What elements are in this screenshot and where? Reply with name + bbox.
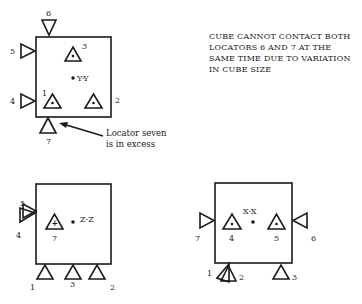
label-locator-6: 6: [46, 9, 51, 18]
label-locator-7-z: 7: [52, 234, 57, 243]
locator-4-triangle: [21, 94, 35, 108]
label-locator-4-z: 4: [16, 231, 21, 240]
locator-3-triangle-x: [273, 265, 289, 279]
center-dot-y: [71, 76, 74, 79]
locator-1-triangle-z: [37, 265, 53, 279]
locator-5-triangle: [21, 44, 35, 58]
label-locator-3: 3: [82, 42, 87, 51]
locator-2-triangle: [85, 94, 102, 108]
note-line: CUBE CANNOT CONTACT BOTH: [209, 31, 359, 42]
label-locator-3-x: 3: [292, 273, 297, 282]
label-locator-5: 5: [10, 47, 15, 56]
label-locator-1-z: 1: [30, 283, 35, 292]
locator-3-triangle-z: [65, 265, 81, 279]
callout-line: is in excess: [106, 139, 167, 150]
label-locator-2: 2: [115, 96, 120, 105]
note-text-block: CUBE CANNOT CONTACT BOTH LOCATORS 6 AND …: [209, 31, 359, 75]
locator-2-triangle-z: [89, 265, 105, 279]
note-line: SAME TIME DUE TO VARIATION: [209, 53, 359, 64]
label-locator-2-x: 2: [239, 273, 244, 282]
locator-6-triangle: [42, 20, 56, 35]
label-locator-7: 7: [46, 137, 51, 146]
axis-label-z-z: Z-Z: [80, 215, 94, 224]
view-y-y: [21, 20, 111, 136]
locator-5-triangle-x: [268, 214, 285, 229]
callout-arrowhead-icon: [59, 122, 68, 128]
axis-label-y-y: Y-Y: [76, 74, 89, 83]
plus-marker-icon: +: [52, 219, 59, 228]
center-dot-x: [251, 220, 255, 224]
axis-label-x-x: X-X: [243, 207, 257, 216]
callout-arrow-line: [63, 124, 103, 136]
callout-line: Locator seven: [106, 128, 167, 139]
note-line: LOCATORS 6 AND 7 AT THE: [209, 42, 359, 53]
locator-4-triangle-x: [223, 214, 241, 229]
cube-outline-z: [36, 184, 111, 264]
center-dot-z: [71, 220, 75, 224]
label-locator-4-x: 4: [229, 234, 234, 243]
label-locator-5-x: 5: [274, 234, 279, 243]
label-locator-1-x: 1: [207, 269, 212, 278]
label-locator-4: 4: [10, 97, 15, 106]
locator-6-triangle-x: [293, 213, 307, 228]
locator-1-triangle-x: [217, 264, 229, 282]
note-line: IN CUBE SIZE: [209, 64, 359, 75]
label-locator-6-x: 6: [311, 234, 316, 243]
locator-3-triangle: [65, 47, 81, 61]
callout-text: Locator seven is in excess: [106, 128, 167, 150]
label-locator-7-x: 7: [195, 234, 200, 243]
label-locator-5-z: 5: [20, 199, 25, 208]
locator-7-triangle-x: [200, 213, 214, 228]
label-locator-1: 1: [42, 89, 47, 98]
locator-7-triangle: [40, 118, 56, 133]
label-locator-2-z: 2: [110, 283, 115, 292]
label-locator-3-z: 3: [70, 280, 75, 289]
